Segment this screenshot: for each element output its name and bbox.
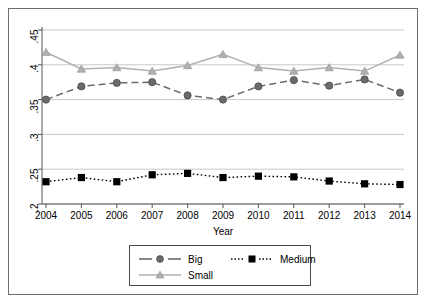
chart-legend: Big Medium Small — [129, 245, 311, 286]
data-point-big — [361, 76, 368, 83]
data-point-big — [42, 96, 49, 103]
legend-key-small — [138, 268, 182, 282]
y-tick-label: .25 — [29, 169, 40, 195]
legend-label-small: Small — [188, 270, 213, 281]
data-point-medium — [290, 173, 297, 180]
x-tick-label: 2009 — [206, 210, 240, 221]
data-point-big — [219, 96, 226, 103]
data-point-medium — [396, 181, 403, 188]
x-tick-label: 2006 — [100, 210, 134, 221]
data-point-medium — [361, 180, 368, 187]
x-tick-label: 2007 — [135, 210, 169, 221]
series-lines-group — [46, 52, 400, 184]
y-tick-label: .45 — [29, 30, 40, 56]
data-point-medium — [326, 177, 333, 184]
x-tick-label: 2005 — [64, 210, 98, 221]
y-tick-label: .35 — [29, 99, 40, 125]
data-point-big — [290, 77, 297, 84]
x-tick-label: 2008 — [171, 210, 205, 221]
legend-label-big: Big — [188, 254, 202, 265]
legend-key-big — [138, 252, 182, 266]
data-point-big — [113, 79, 120, 86]
legend-entry-small: Small — [138, 267, 213, 283]
y-tick-label: .3 — [29, 134, 40, 160]
x-tick-label: 2011 — [277, 210, 311, 221]
x-tick-label: 2014 — [383, 210, 417, 221]
data-point-small — [396, 51, 404, 58]
legend-key-medium — [230, 252, 274, 266]
data-point-medium — [78, 174, 85, 181]
data-point-big — [184, 92, 191, 99]
x-axis-title: Year — [42, 226, 404, 237]
data-point-medium — [184, 170, 191, 177]
x-tick-label: 2012 — [312, 210, 346, 221]
x-tick-label: 2010 — [241, 210, 275, 221]
data-point-medium — [113, 178, 120, 185]
data-point-big — [326, 82, 333, 89]
data-point-medium — [149, 171, 156, 178]
data-point-big — [396, 89, 403, 96]
data-point-medium — [255, 173, 262, 180]
data-point-big — [78, 83, 85, 90]
legend-entry-big: Big — [138, 251, 202, 267]
x-tick-label: 2004 — [29, 210, 63, 221]
data-point-medium — [219, 174, 226, 181]
legend-entry-medium: Medium — [230, 251, 316, 267]
chart-figure: .2.25.3.35.4.45 200420052006200720082009… — [0, 0, 426, 303]
x-tick-label: 2013 — [348, 210, 382, 221]
y-tick-label: .4 — [29, 64, 40, 90]
data-point-small — [219, 50, 227, 57]
data-point-big — [255, 83, 262, 90]
data-point-medium — [42, 178, 49, 185]
legend-label-medium: Medium — [280, 254, 316, 265]
data-point-big — [149, 79, 156, 86]
data-point-small — [42, 48, 50, 55]
